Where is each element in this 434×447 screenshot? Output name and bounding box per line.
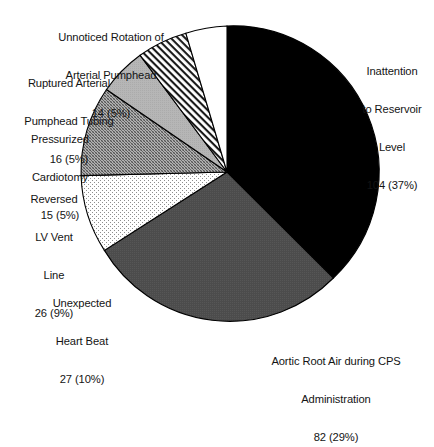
slice-label-line: to Reservoir bbox=[352, 103, 432, 116]
slice-label-value: 104 (37%) bbox=[352, 179, 432, 192]
slice-label-line: LV Vent bbox=[4, 231, 104, 244]
slice-label-aortic-root-air-during-cps-administration: Aortic Root Air during CPS Administratio… bbox=[243, 330, 429, 447]
slice-label-line: Ruptured Arterial bbox=[4, 77, 134, 90]
slice-label-line: Inattention bbox=[352, 65, 432, 78]
slice-label-line: Aortic Root Air during CPS bbox=[243, 355, 429, 368]
slice-label-inattention-to-reservoir-level: Inattention to Reservoir Level 104 (37%) bbox=[352, 40, 432, 216]
slice-label-line: Administration bbox=[243, 393, 429, 406]
slice-label-value: 82 (29%) bbox=[243, 431, 429, 444]
slice-label-line: Heart Beat bbox=[24, 335, 140, 348]
slice-label-value: 27 (10%) bbox=[24, 373, 140, 386]
slice-label-line: Level bbox=[352, 141, 432, 154]
slice-label-line: Unexpected bbox=[24, 297, 140, 310]
slice-label-line: Unnoticed Rotation of bbox=[22, 31, 200, 44]
slice-label-line: Reversed bbox=[4, 193, 104, 206]
slice-label-unexpected-heart-beat: Unexpected Heart Beat 27 (10%) bbox=[24, 272, 140, 411]
slice-label-line: Pressurized bbox=[4, 133, 116, 146]
